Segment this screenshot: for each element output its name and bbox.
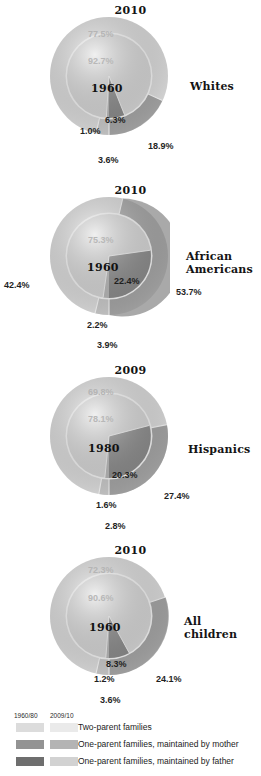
label-outer-father-african-americans: 3.9% <box>97 340 118 350</box>
label-outer-two-parent-whites: 77.5% <box>88 29 114 39</box>
group-label-african-americans: African Americans <box>186 250 253 276</box>
label-outer-two-parent-hispanics: 69.8% <box>88 387 114 397</box>
label-inner-two-parent-african-americans: 75.3% <box>88 235 114 245</box>
label-inner-two-parent-all-children: 90.6% <box>88 593 114 603</box>
label-inner-two-parent-hispanics: 78.1% <box>88 414 114 424</box>
center-year-hispanics: 1980 <box>88 442 120 455</box>
legend-swatch-old-two-parent <box>16 723 44 732</box>
label-inner-father-all-children: 1.2% <box>94 674 115 684</box>
label-outer-mother-hispanics: 27.4% <box>164 491 190 501</box>
label-outer-two-parent-all-children: 72.3% <box>88 565 114 575</box>
legend-swatch-old-mother <box>16 740 44 749</box>
legend-label-two-parent: Two-parent families <box>78 722 152 732</box>
label-inner-mother-whites: 6.3% <box>105 115 126 125</box>
center-year-african-americans: 1960 <box>87 261 119 274</box>
group-label-all-children: All children <box>184 615 237 641</box>
label-inner-mother-african-americans: 22.4% <box>114 276 140 286</box>
label-outer-mother-african-americans: 53.7% <box>176 287 202 297</box>
group-label-line2: Americans <box>186 263 253 276</box>
center-year-whites: 1960 <box>91 82 123 95</box>
donut-shading <box>50 197 168 315</box>
label-inner-father-hispanics: 1.6% <box>96 500 117 510</box>
legend-swatch-new-father <box>50 757 78 766</box>
label-outer-father-all-children: 3.6% <box>100 695 121 705</box>
label-outer-mother-whites: 18.9% <box>148 141 174 151</box>
group-label-line2: children <box>184 628 237 641</box>
label-inner-mother-all-children: 8.3% <box>106 659 127 669</box>
chart-block-whites: 2010 <box>0 0 261 180</box>
label-outer-two-parent-african-americans: 42.4% <box>4 280 30 290</box>
center-year-all-children: 1960 <box>89 621 121 634</box>
group-label-line1: All <box>184 615 237 628</box>
legend-swatch-new-mother <box>50 740 78 749</box>
label-inner-two-parent-whites: 92.7% <box>88 56 114 66</box>
label-outer-mother-all-children: 24.1% <box>156 674 182 684</box>
legend-swatch-old-father <box>16 757 44 766</box>
chart-block-african-americans: 2010 42.4% 75.3% 1960 22.4% 2.2% 53.7% 3… <box>0 180 261 360</box>
label-inner-father-whites: 1.0% <box>80 126 101 136</box>
label-inner-father-african-americans: 2.2% <box>87 320 108 330</box>
legend-col-head-new: 2009/10 <box>50 712 74 719</box>
legend-label-father: One-parent families, maintained by fathe… <box>78 756 234 766</box>
label-outer-father-whites: 3.6% <box>98 155 119 165</box>
group-label-whites: Whites <box>190 80 234 93</box>
donut-svg-african-americans <box>48 195 170 317</box>
legend: 1960/80 2009/10 Two-parent families One-… <box>0 712 261 776</box>
legend-label-mother: One-parent families, maintained by mothe… <box>78 739 239 749</box>
legend-swatch-new-two-parent <box>50 723 78 732</box>
chart-block-all-children: 2010 72.3% 90.6% 1960 8.3% 1.2% 24.1% 3.… <box>0 540 261 720</box>
group-label-hispanics: Hispanics <box>188 443 250 456</box>
chart-block-hispanics: 2009 69.8% 78.1% 1980 20.3% 1.6% 27.4% 2… <box>0 360 261 540</box>
donut-african-americans <box>48 195 170 317</box>
group-label-line1: African <box>186 250 253 263</box>
legend-col-head-old: 1960/80 <box>14 712 38 719</box>
label-inner-mother-hispanics: 20.3% <box>112 470 138 480</box>
label-outer-father-hispanics: 2.8% <box>105 521 126 531</box>
